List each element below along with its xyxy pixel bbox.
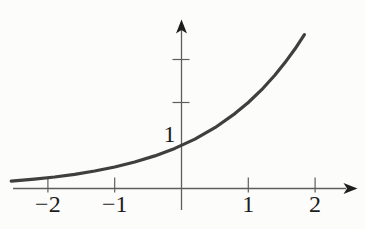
- exponential-curve: [11, 35, 304, 182]
- x-tick-label-neg1: −1: [102, 192, 128, 216]
- y-tick-label-1: 1: [164, 122, 176, 146]
- exponential-graph: −2 −1 1 2 1: [0, 0, 365, 229]
- x-tick-label-2: 2: [309, 192, 321, 216]
- x-tick-label-1: 1: [242, 192, 254, 216]
- x-tick-label-neg2: −2: [35, 192, 61, 216]
